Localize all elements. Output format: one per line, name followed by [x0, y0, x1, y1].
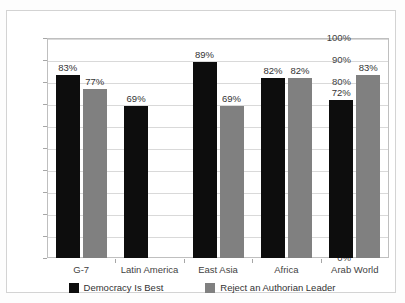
bar — [288, 78, 312, 258]
bar — [261, 78, 285, 258]
y-axis-tick — [43, 82, 47, 83]
y-axis-tick-label: 100% — [311, 33, 351, 43]
x-axis-category-label: East Asia — [184, 265, 252, 275]
chart-legend: Democracy Is BestReject an Authorian Lea… — [7, 283, 397, 293]
x-axis-tick — [115, 259, 116, 263]
x-axis-category-label: G-7 — [47, 265, 115, 275]
bar — [220, 106, 244, 258]
bar-value-label: 69% — [214, 94, 250, 104]
legend-item[interactable]: Reject an Authorian Leader — [205, 283, 335, 293]
y-axis-tick — [43, 104, 47, 105]
bar-value-label: 83% — [50, 63, 86, 73]
bar-chart: 0%10%20%30%40%50%60%70%80%90%100% 83%77%… — [0, 0, 405, 303]
y-axis-tick — [43, 38, 47, 39]
bar-value-label: 72% — [323, 88, 359, 98]
bar — [193, 62, 217, 258]
y-axis-tick — [43, 148, 47, 149]
y-axis-tick-label: 80% — [311, 77, 351, 87]
bar — [124, 106, 148, 258]
legend-item[interactable]: Democracy Is Best — [69, 283, 164, 293]
bar-value-label: 82% — [282, 66, 318, 76]
chart-frame: 0%10%20%30%40%50%60%70%80%90%100% 83%77%… — [6, 10, 396, 293]
y-axis-tick — [43, 258, 47, 259]
legend-item-label: Democracy Is Best — [84, 283, 164, 293]
bar-value-label: 83% — [350, 63, 386, 73]
x-axis-category-label: Latin America — [115, 265, 183, 275]
x-axis-tick — [321, 259, 322, 263]
y-axis-tick — [43, 214, 47, 215]
x-axis-category-label: Africa — [252, 265, 320, 275]
y-axis-tick — [43, 126, 47, 127]
gray-swatch — [205, 283, 215, 293]
bar — [329, 100, 353, 258]
bar-value-label: 89% — [187, 50, 223, 60]
bar-value-label: 77% — [77, 77, 113, 87]
x-axis-tick — [252, 259, 253, 263]
y-axis-tick — [43, 60, 47, 61]
y-axis-tick — [43, 170, 47, 171]
bar — [356, 75, 380, 258]
x-axis-tick — [184, 259, 185, 263]
legend-item-label: Reject an Authorian Leader — [220, 283, 335, 293]
y-axis-tick-label: 90% — [311, 55, 351, 65]
bar — [56, 75, 80, 258]
y-axis-tick — [43, 192, 47, 193]
x-axis-category-label: Arab World — [321, 265, 389, 275]
bar-value-label: 69% — [118, 94, 154, 104]
bar — [83, 89, 107, 258]
black-swatch — [69, 283, 79, 293]
y-axis-tick — [43, 236, 47, 237]
